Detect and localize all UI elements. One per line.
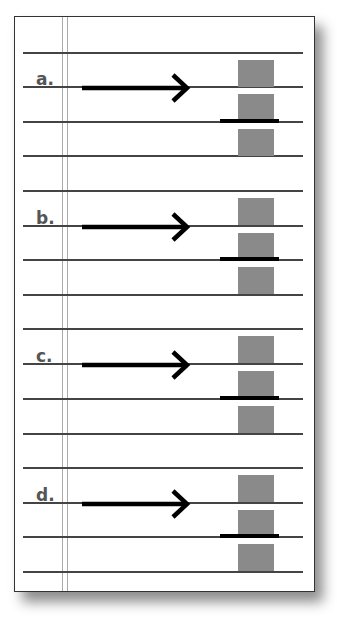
gray-block bbox=[238, 198, 274, 225]
black-bar bbox=[220, 534, 279, 538]
gray-block bbox=[238, 406, 274, 433]
rule-line bbox=[23, 52, 303, 54]
gray-block bbox=[238, 233, 274, 260]
right-arrow-icon bbox=[81, 489, 191, 519]
black-bar bbox=[220, 257, 279, 261]
black-bar bbox=[220, 396, 279, 400]
gray-block bbox=[238, 129, 274, 156]
black-bar bbox=[220, 119, 279, 123]
rule-line bbox=[23, 571, 303, 573]
gray-block bbox=[238, 60, 274, 87]
rule-line bbox=[23, 294, 303, 296]
rule-line bbox=[23, 433, 303, 435]
rule-line bbox=[23, 467, 303, 469]
gray-block bbox=[238, 544, 274, 571]
rule-line bbox=[23, 328, 303, 330]
gray-block bbox=[238, 267, 274, 294]
gray-block bbox=[238, 94, 274, 121]
section-label: c. bbox=[36, 348, 53, 365]
section-label: a. bbox=[36, 71, 54, 88]
right-arrow-icon bbox=[81, 350, 191, 380]
section-label: b. bbox=[36, 210, 55, 227]
gray-block bbox=[238, 371, 274, 398]
gray-block bbox=[238, 336, 274, 363]
notebook-paper: a. b. c. bbox=[14, 16, 315, 592]
gray-block bbox=[238, 475, 274, 502]
section-label: d. bbox=[36, 487, 55, 504]
rule-line bbox=[23, 190, 303, 192]
margin-line-right bbox=[67, 17, 68, 591]
right-arrow-icon bbox=[81, 73, 191, 103]
margin-line-left bbox=[62, 17, 63, 591]
right-arrow-icon bbox=[81, 212, 191, 242]
gray-block bbox=[238, 510, 274, 537]
